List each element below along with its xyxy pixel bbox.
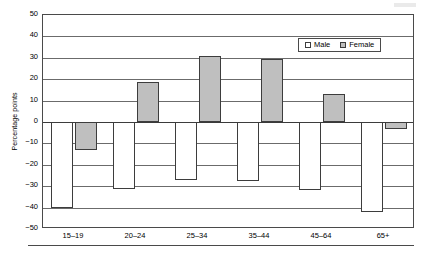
y-tick-label: 20 [14,74,38,82]
y-tick-label: 50 [14,10,38,18]
legend-entry-male: Male [305,41,330,49]
bar-male-0 [51,122,73,208]
gridline [43,165,413,166]
chart-legend: Male Female [298,38,381,52]
y-tick-label: 10 [14,96,38,104]
y-tick-label: −30 [14,181,38,189]
gridline [43,58,413,59]
y-tick-label: −40 [14,203,38,211]
bar-female-3 [261,59,283,122]
gridline [43,143,413,144]
bar-female-1 [137,82,159,122]
gridline [43,186,413,187]
bar-male-3 [237,122,259,181]
gridline [43,79,413,80]
x-tick-label: 20–24 [104,231,166,240]
zero-line [43,122,413,123]
chart-figure: Percentage points 50403020100−10−20−30−4… [0,0,422,259]
legend-label-male: Male [314,41,330,49]
y-tick-label: 0 [14,117,38,125]
x-tick-label: 45–64 [290,231,352,240]
x-tick-label: 25–34 [166,231,228,240]
gridline [43,36,413,37]
bar-female-4 [323,94,345,122]
x-tick-label: 15–19 [42,231,104,240]
y-tick-label: −20 [14,160,38,168]
y-tick-label: 40 [14,31,38,39]
legend-swatch-male-icon [305,42,311,48]
bar-female-2 [199,56,221,122]
bar-female-5 [385,122,407,129]
y-tick-label: 30 [14,53,38,61]
gridline [43,101,413,102]
bar-male-1 [113,122,135,189]
bar-female-0 [75,122,97,150]
y-tick-label: −50 [14,224,38,232]
legend-label-female: Female [349,41,374,49]
page-artifact [394,3,416,7]
legend-entry-female: Female [340,41,374,49]
bar-male-4 [299,122,321,190]
axis-baseline [28,245,414,246]
x-tick-label: 35–44 [228,231,290,240]
y-tick-label: −10 [14,138,38,146]
bar-male-2 [175,122,197,180]
gridline [43,208,413,209]
legend-swatch-female-icon [340,42,346,48]
bar-male-5 [361,122,383,212]
x-tick-label: 65+ [352,231,414,240]
